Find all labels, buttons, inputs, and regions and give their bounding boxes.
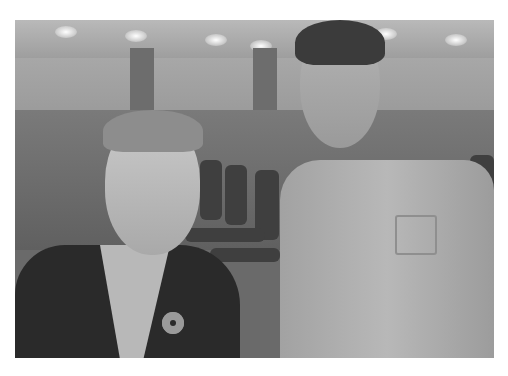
ceiling-light <box>125 30 147 42</box>
chair <box>200 160 222 220</box>
boy-shirt <box>280 160 494 358</box>
lapel-pin-icon <box>162 312 184 334</box>
shirt-pocket <box>395 215 437 255</box>
chair <box>225 165 247 225</box>
boy-hair <box>295 20 385 65</box>
man-hair <box>103 110 203 152</box>
chair-seat <box>185 228 265 242</box>
ceiling-light <box>205 34 227 46</box>
photograph <box>15 20 494 358</box>
ceiling-light <box>445 34 467 46</box>
ceiling-light <box>55 26 77 38</box>
